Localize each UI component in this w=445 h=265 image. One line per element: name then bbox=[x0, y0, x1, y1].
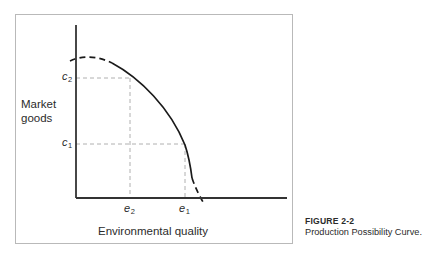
y-axis-title: Market goods bbox=[21, 98, 56, 125]
figure-caption: FIGURE 2-2 Production Possibility Curve. bbox=[305, 216, 443, 239]
tick-label-e2-subscript: 2 bbox=[131, 207, 135, 216]
y-axis-title-line2: goods bbox=[21, 112, 56, 126]
tick-label-c2: c2 bbox=[62, 70, 72, 83]
caption-text: Production Possibility Curve. bbox=[305, 227, 443, 239]
tick-label-e1-subscript: 1 bbox=[186, 207, 190, 216]
x-axis-title: Environmental quality bbox=[98, 225, 208, 239]
figure-page: Market goods Environmental quality c2 c1… bbox=[0, 0, 445, 265]
tick-label-c2-subscript: 2 bbox=[68, 75, 72, 84]
tick-label-e1-base: e bbox=[179, 202, 185, 214]
tick-label-c1-base: c bbox=[62, 136, 68, 148]
tick-label-c1: c1 bbox=[62, 136, 72, 149]
tick-label-c1-subscript: 1 bbox=[68, 141, 72, 150]
production-possibility-curve bbox=[112, 63, 192, 178]
tick-label-e2-base: e bbox=[124, 202, 130, 214]
tick-label-e1: e1 bbox=[179, 202, 189, 215]
y-axis-title-line1: Market bbox=[21, 98, 56, 112]
tick-label-c2-base: c bbox=[62, 70, 68, 82]
caption-title: FIGURE 2-2 bbox=[305, 216, 443, 227]
tick-label-e2: e2 bbox=[124, 202, 134, 215]
